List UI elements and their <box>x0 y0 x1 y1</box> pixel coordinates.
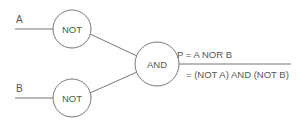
input-a-label: A <box>16 14 23 25</box>
not-b-to-and-wire <box>90 72 137 93</box>
not-a-to-and-wire <box>90 34 137 56</box>
input-b-label: B <box>16 83 23 94</box>
and-gate-label: AND <box>147 59 167 70</box>
output-label-expansion: = (NOT A) AND (NOT B) <box>186 69 289 80</box>
not-gate-b-label: NOT <box>62 93 82 104</box>
not-gate-a-label: NOT <box>62 24 82 35</box>
output-label-p: P = A NOR B <box>177 49 232 60</box>
logic-diagram: A B NOT NOT AND P = A NOR B = (NOT A) AN… <box>0 0 301 125</box>
